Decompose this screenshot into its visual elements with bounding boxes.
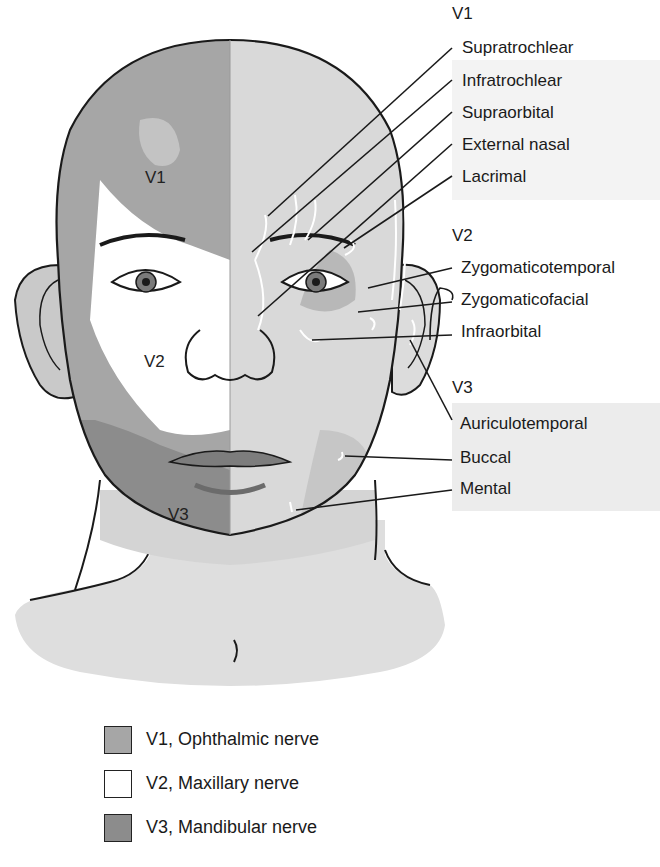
legend-item-v1: V1, Ophthalmic nerve (104, 727, 319, 752)
group-title-v1: V1 (452, 4, 473, 24)
callout-zygomaticotemporal: Zygomaticotemporal (461, 258, 615, 278)
callout-buccal: Buccal (460, 448, 511, 468)
legend-swatch-v3 (104, 814, 132, 842)
callout-supratrochlear: Supratrochlear (462, 38, 574, 58)
legend-item-v3: V3, Mandibular nerve (104, 815, 319, 840)
callout-supraorbital: Supraorbital (462, 103, 554, 123)
group-title-v3: V3 (452, 378, 473, 398)
legend-label-v1: V1, Ophthalmic nerve (146, 729, 319, 750)
callout-zygomaticofacial: Zygomaticofacial (461, 290, 589, 310)
callout-mental: Mental (460, 479, 511, 499)
callout-lacrimal: Lacrimal (462, 167, 526, 187)
callout-infraorbital: Infraorbital (461, 322, 541, 342)
zone-label-v2: V2 (144, 352, 165, 372)
legend-swatch-v1 (104, 726, 132, 754)
group-title-v2: V2 (452, 226, 473, 246)
callout-infratrochlear: Infratrochlear (462, 71, 562, 91)
legend-item-v2: V2, Maxillary nerve (104, 771, 319, 796)
callout-external-nasal: External nasal (462, 135, 570, 155)
legend-label-v3: V3, Mandibular nerve (146, 817, 317, 838)
legend-swatch-v2 (104, 770, 132, 798)
legend: V1, Ophthalmic nerve V2, Maxillary nerve… (104, 727, 319, 859)
legend-label-v2: V2, Maxillary nerve (146, 773, 299, 794)
zone-label-v1: V1 (145, 168, 166, 188)
zone-label-v3: V3 (168, 505, 189, 525)
callout-auriculotemporal: Auriculotemporal (460, 414, 588, 434)
